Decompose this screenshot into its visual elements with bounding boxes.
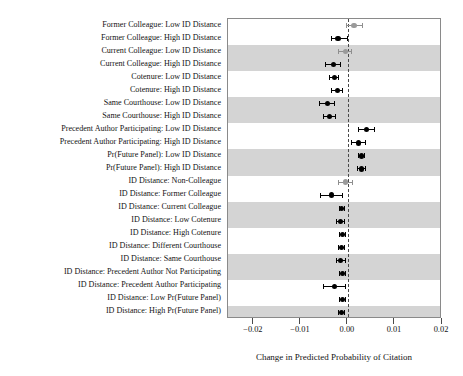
plot-panel	[227, 18, 441, 318]
y-axis-tick-label: ID Distance: Current Colleague	[0, 202, 221, 211]
y-axis-tick-label: Current Colleague: Low ID Distance	[0, 46, 221, 55]
estimate-marker	[340, 232, 345, 237]
y-axis-tick-label: Same Courthouse: High ID Distance	[0, 111, 221, 120]
y-axis-tick-label: Former Colleague: Low ID Distance	[0, 20, 221, 29]
estimate-row	[228, 215, 440, 228]
x-axis-tick-label: −0.01	[290, 325, 309, 334]
y-axis-tick-label: Same Courthouse: Low ID Distance	[0, 98, 221, 107]
estimate-row	[228, 293, 440, 306]
estimate-row	[228, 254, 440, 267]
whisker-cap-high	[344, 310, 345, 315]
estimate-marker	[356, 140, 361, 145]
whisker-cap-low	[358, 127, 359, 132]
y-axis-tick-label: ID Distance: Same Courthouse	[0, 254, 221, 263]
y-axis-tick-label: Pr(Future Panel): Low ID Distance	[0, 150, 221, 159]
coefficient-plot-figure: Former Colleague: Low ID DistanceFormer …	[0, 0, 463, 376]
whisker-cap-high	[335, 114, 336, 119]
estimate-row	[228, 84, 440, 97]
estimate-marker	[359, 166, 364, 171]
estimate-marker	[331, 62, 336, 67]
y-axis-tick-label: Pr(Future Panel): High ID Distance	[0, 163, 221, 172]
whisker-cap-high	[352, 180, 353, 185]
y-axis-tick-label: ID Distance: High Cotenure	[0, 228, 221, 237]
x-axis-tick	[299, 318, 300, 324]
estimate-row	[228, 176, 440, 189]
y-axis-tick-label: Former Colleague: High ID Distance	[0, 33, 221, 42]
whisker-cap-low	[329, 75, 330, 80]
estimate-row	[228, 58, 440, 71]
estimate-row	[228, 45, 440, 58]
estimate-row	[228, 97, 440, 110]
x-axis-tick	[441, 318, 442, 324]
y-axis-tick-label: ID Distance: Low Pr(Future Panel)	[0, 293, 221, 302]
whisker-cap-low	[336, 219, 337, 224]
whisker-cap-low	[323, 114, 324, 119]
x-axis: −0.02−0.010.000.010.02	[227, 318, 441, 326]
whisker-cap-high	[351, 49, 352, 54]
estimate-marker	[325, 101, 330, 106]
estimate-marker	[351, 23, 356, 28]
estimate-marker	[329, 192, 334, 197]
whisker-cap-low	[338, 49, 339, 54]
estimate-row	[228, 19, 440, 32]
estimate-marker	[364, 127, 369, 132]
whisker-cap-low	[346, 23, 347, 28]
whisker-cap-high	[344, 245, 345, 250]
y-axis-tick-label: ID Distance: Different Courthouse	[0, 241, 221, 250]
whisker-cap-low	[319, 101, 320, 106]
estimate-row	[228, 123, 440, 136]
y-axis-tick-label: ID Distance: Low Cotenure	[0, 215, 221, 224]
whisker-cap-high	[342, 193, 343, 198]
whisker-cap-high	[344, 219, 345, 224]
x-axis-tick	[252, 318, 253, 324]
y-axis-tick-label: Precedent Author Participating: Low ID D…	[0, 124, 221, 133]
y-axis-tick-label: ID Distance: Non-Colleague	[0, 176, 221, 185]
estimate-marker	[327, 114, 332, 119]
y-axis-tick-label: ID Distance: High Pr(Future Panel)	[0, 306, 221, 315]
estimate-row	[228, 110, 440, 123]
estimate-marker	[338, 219, 343, 224]
whisker-cap-low	[336, 258, 337, 263]
x-axis-title: Change in Predicted Probability of Citat…	[227, 352, 441, 362]
whisker-cap-low	[323, 284, 324, 289]
y-axis-tick-label: ID Distance: Precedent Author Not Partic…	[0, 267, 221, 276]
estimate-row	[228, 267, 440, 280]
whisker-cap-high	[340, 62, 341, 67]
whisker-cap-high	[345, 271, 346, 276]
estimate-marker	[332, 284, 337, 289]
estimate-row	[228, 202, 440, 215]
estimate-row	[228, 149, 440, 162]
whisker-cap-high	[374, 127, 375, 132]
x-axis-tick	[393, 318, 394, 324]
estimate-row	[228, 306, 440, 318]
whisker-cap-low	[331, 36, 332, 41]
estimate-marker	[335, 36, 340, 41]
estimate-marker	[332, 75, 337, 80]
estimate-row	[228, 280, 440, 293]
estimate-row	[228, 71, 440, 84]
y-axis-tick-label: ID Distance: Former Colleague	[0, 189, 221, 198]
whisker-cap-low	[338, 180, 339, 185]
whisker-cap-low	[320, 193, 321, 198]
y-axis-label-column: Former Colleague: Low ID DistanceFormer …	[0, 0, 225, 376]
whisker-cap-high	[345, 284, 346, 289]
estimate-marker	[359, 153, 364, 158]
whisker-cap-high	[345, 258, 346, 263]
whisker-cap-high	[365, 140, 366, 145]
estimate-marker	[343, 179, 348, 184]
x-axis-tick-label: −0.02	[243, 325, 262, 334]
estimate-marker	[338, 258, 343, 263]
whisker-cap-high	[347, 36, 348, 41]
estimate-row	[228, 228, 440, 241]
whisker-cap-high	[342, 88, 343, 93]
estimate-row	[228, 32, 440, 45]
whisker-cap-high	[362, 23, 363, 28]
estimate-row	[228, 136, 440, 149]
whisker-cap-high	[334, 101, 335, 106]
y-axis-tick-label: Cotenure: Low ID Distance	[0, 72, 221, 81]
whisker-cap-low	[351, 140, 352, 145]
x-axis-tick	[346, 318, 347, 324]
y-axis-tick-label: Current Colleague: High ID Distance	[0, 59, 221, 68]
estimate-row	[228, 162, 440, 175]
x-axis-tick-label: 0.00	[340, 325, 355, 334]
